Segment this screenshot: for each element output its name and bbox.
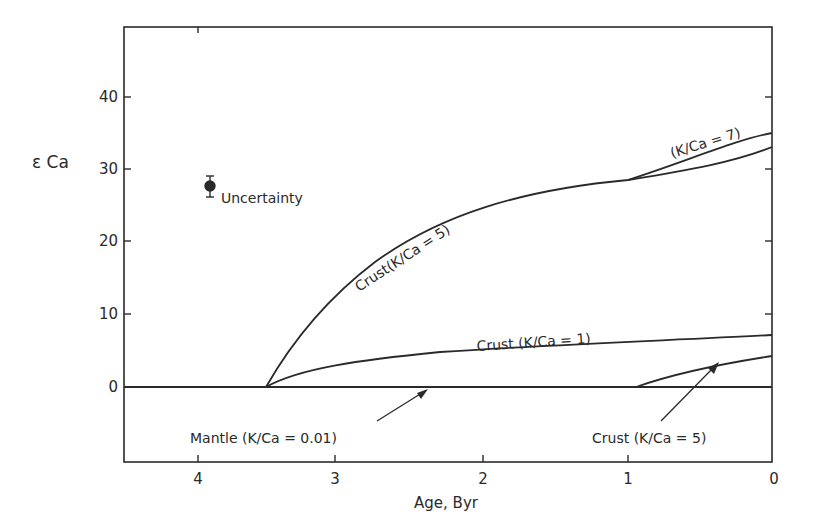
label-crust-7: (K/Ca = 7) — [668, 124, 742, 161]
y-tick-30: 30 — [99, 160, 118, 178]
y-tick-40: 40 — [99, 88, 118, 106]
uncertainty-label: Uncertainty — [221, 190, 303, 206]
label-mantle: Mantle (K/Ca = 0.01) — [190, 430, 337, 446]
x-axis-label: Age, Byr — [414, 494, 479, 512]
x-tick-2: 2 — [478, 470, 488, 488]
x-tick-1: 1 — [623, 470, 633, 488]
y-tick-0: 0 — [108, 378, 118, 396]
x-tick-0: 0 — [769, 470, 779, 488]
arrow-mantle — [377, 389, 428, 421]
x-tick-labels: 4 3 2 1 0 — [193, 470, 779, 488]
x-axis-ticks-bottom — [198, 455, 628, 462]
label-crust-5-upper: Crust(K/Ca = 5) — [352, 221, 453, 294]
y-tick-labels: 0 10 20 30 40 — [99, 88, 118, 396]
label-crust-5-lower: Crust (K/Ca = 5) — [592, 430, 706, 446]
series-crust-5-lower — [636, 356, 772, 387]
x-tick-4: 4 — [193, 470, 203, 488]
plot-frame — [124, 27, 772, 462]
y-axis-ticks-left — [124, 97, 131, 387]
y-tick-10: 10 — [99, 305, 118, 323]
y-axis-label: ε Ca — [32, 152, 69, 172]
y-axis-ticks-right — [765, 97, 772, 314]
uncertainty-marker — [205, 176, 215, 197]
y-tick-20: 20 — [99, 232, 118, 250]
x-tick-3: 3 — [330, 470, 340, 488]
label-crust-1: Crust (K/Ca = 1) — [476, 330, 591, 354]
chart: 0 10 20 30 40 4 3 2 1 0 ε Ca Age, Byr Un… — [0, 0, 814, 532]
